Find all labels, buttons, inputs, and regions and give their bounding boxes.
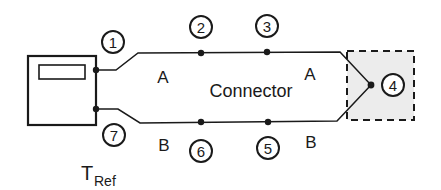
svg-text:7: 7 bbox=[110, 127, 118, 144]
junction-dot-6 bbox=[198, 119, 204, 125]
svg-text:2: 2 bbox=[197, 19, 205, 36]
node-5-callout: 5 bbox=[257, 137, 279, 159]
node-7-callout: 7 bbox=[103, 124, 125, 146]
junction-dot-2 bbox=[198, 50, 204, 56]
svg-text:4: 4 bbox=[389, 77, 397, 94]
svg-text:5: 5 bbox=[264, 140, 272, 157]
wire-b-label-left: B bbox=[158, 136, 169, 155]
connector-label: Connector bbox=[209, 81, 292, 101]
junction-dot-4 bbox=[368, 82, 375, 89]
instrument-display bbox=[39, 65, 85, 79]
thermocouple-circuit-diagram: 1 2 3 4 5 6 7 A A B B Connector T Ref bbox=[0, 0, 441, 190]
node-2-callout: 2 bbox=[190, 16, 212, 38]
junction-dot-1 bbox=[93, 67, 99, 73]
node-3-callout: 3 bbox=[256, 15, 278, 37]
node-1-callout: 1 bbox=[102, 31, 124, 53]
node-6-callout: 6 bbox=[190, 140, 212, 162]
svg-text:3: 3 bbox=[263, 18, 271, 35]
junction-dot-7 bbox=[93, 106, 99, 112]
node-4-callout: 4 bbox=[382, 74, 404, 96]
wire-b-label-right: B bbox=[305, 133, 316, 152]
svg-text:T: T bbox=[81, 162, 93, 184]
svg-text:Ref: Ref bbox=[94, 173, 116, 189]
reference-temperature-label: T Ref bbox=[81, 162, 116, 189]
wire-a-label-right: A bbox=[304, 65, 316, 84]
junction-dot-3 bbox=[264, 49, 270, 55]
measuring-instrument bbox=[28, 56, 96, 125]
svg-text:1: 1 bbox=[109, 34, 117, 51]
junction-dot-5 bbox=[265, 119, 271, 125]
wire-a-label-left: A bbox=[157, 68, 169, 87]
svg-text:6: 6 bbox=[197, 143, 205, 160]
